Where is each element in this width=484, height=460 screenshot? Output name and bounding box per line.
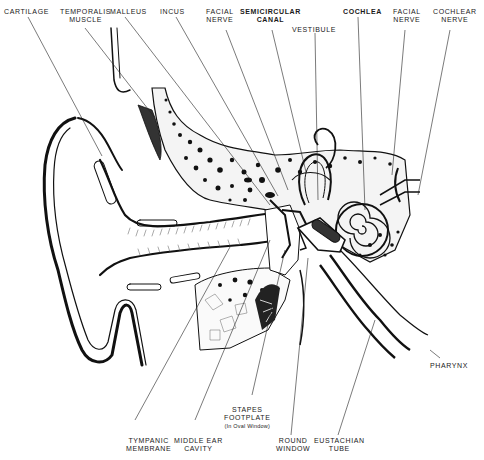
label-cartilage: CARTILAGE <box>4 8 49 16</box>
label-vestibule: VESTIBULE <box>292 26 336 34</box>
label-stapes-footplate: STAPESFOOTPLATE(In Oval Window) <box>224 406 271 430</box>
label-pharynx: PHARYNX <box>430 362 468 370</box>
eustachian-tube-shape <box>300 250 428 358</box>
label-cochlea: COCHLEA <box>343 8 382 16</box>
label-facial-nerve-1: FACIALNERVE <box>206 8 234 24</box>
label-round-window: ROUNDWINDOW <box>276 437 310 453</box>
label-semicircular-canal: SEMICIRCULARCANAL <box>240 8 301 24</box>
ear-drawing <box>0 0 484 460</box>
label-tympanic-membrane: TYMPANICMEMBRANE <box>126 437 171 453</box>
ear-anatomy-diagram: CARTILAGE TEMPORALISMUSCLE MALLEUS INCUS… <box>0 0 484 460</box>
label-eustachian-tube: EUSTACHIANTUBE <box>314 437 365 453</box>
label-temporalis-muscle: TEMPORALISMUSCLE <box>60 8 111 24</box>
label-middle-ear-cavity: MIDDLE EARCAVITY <box>174 437 223 453</box>
label-facial-nerve-2: FACIALNERVE <box>393 8 421 24</box>
label-incus: INCUS <box>160 8 185 16</box>
label-cochlear-nerve: COCHLEARNERVE <box>433 8 477 24</box>
label-malleus: MALLEUS <box>110 8 147 16</box>
